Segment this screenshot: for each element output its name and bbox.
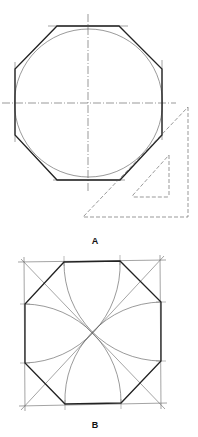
inscribed-circle bbox=[15, 29, 163, 177]
figure-b-label: B bbox=[92, 420, 99, 430]
figure-b bbox=[18, 255, 167, 411]
arc-bottom-left bbox=[25, 304, 121, 403]
arc-bottom-right bbox=[65, 302, 161, 404]
triangle-outer bbox=[83, 107, 188, 217]
figure-a-label: A bbox=[92, 236, 99, 246]
figure-a bbox=[2, 14, 188, 217]
diagram-canvas bbox=[0, 0, 198, 437]
